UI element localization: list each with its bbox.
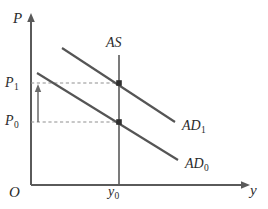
ad0-curve-label-base: AD xyxy=(185,156,204,171)
price-low-label-base: P xyxy=(5,113,14,128)
equilibrium-point-e1 xyxy=(116,80,122,86)
price-high-label-sub: 1 xyxy=(14,82,19,92)
price-low-label: P0 xyxy=(5,114,19,130)
axes-group xyxy=(27,13,250,189)
x-axis-label: y xyxy=(250,183,257,198)
price-increase-arrowhead xyxy=(35,84,41,92)
y-axis-arrowhead xyxy=(27,13,35,22)
ad0-curve-label-sub: 0 xyxy=(204,163,209,173)
diagram-canvas xyxy=(0,0,268,209)
output-label-sub: 0 xyxy=(114,191,119,201)
output-label: y0 xyxy=(108,185,119,201)
price-high-label-base: P xyxy=(5,75,14,90)
ad1-curve-label-base: AD xyxy=(182,118,201,133)
price-low-label-sub: 0 xyxy=(14,120,19,130)
equilibrium-point-e0 xyxy=(116,119,122,125)
price-high-label: P1 xyxy=(5,76,19,92)
x-axis-arrowhead xyxy=(241,181,250,189)
y-axis-label: P xyxy=(13,11,22,26)
price-increase-arrow xyxy=(35,84,41,122)
ad1-curve-label: AD1 xyxy=(182,119,206,135)
ad0-curve-label: AD0 xyxy=(185,157,209,173)
ad-as-diagram: P y O P1 P0 y0 AS AD1 AD0 xyxy=(0,0,268,209)
origin-label: O xyxy=(9,185,20,200)
ad0-curve xyxy=(37,73,178,160)
ad1-curve-label-sub: 1 xyxy=(201,125,206,135)
as-curve-label: AS xyxy=(106,36,122,50)
